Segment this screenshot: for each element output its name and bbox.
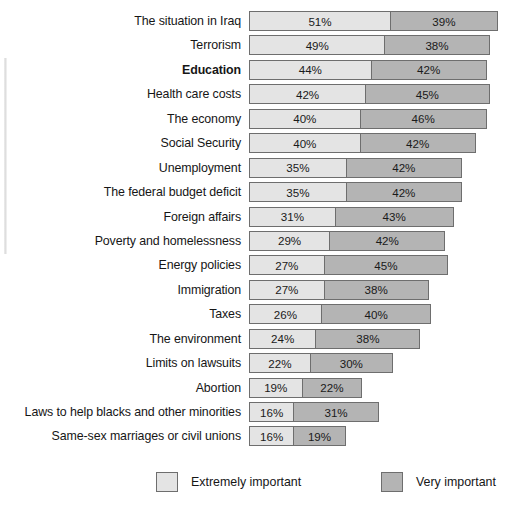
bar-segment-very-important: 42%	[346, 158, 462, 178]
stacked-bar: 49%38%	[249, 35, 490, 55]
row-label: Terrorism	[190, 35, 241, 55]
bar-segment-extremely-important: 31%	[249, 207, 335, 227]
stacked-bar: 51%39%	[249, 11, 498, 31]
stacked-bar: 44%42%	[249, 60, 487, 80]
row-label: Immigration	[177, 280, 241, 300]
bar-segment-very-important: 19%	[293, 426, 346, 446]
bar-segment-extremely-important: 35%	[249, 158, 346, 178]
bar-segment-very-important: 42%	[329, 231, 445, 251]
chart-row: The economy40%46%	[0, 109, 519, 133]
chart-row: Health care costs42%45%	[0, 84, 519, 108]
stacked-bar: 35%42%	[249, 182, 462, 202]
bar-segment-very-important: 31%	[293, 402, 379, 422]
chart-row: Social Security40%42%	[0, 133, 519, 157]
row-label: Energy policies	[158, 255, 241, 275]
stacked-bar: 42%45%	[249, 84, 490, 104]
row-label: Laws to help blacks and other minorities	[25, 402, 241, 422]
stacked-bar: 27%38%	[249, 280, 429, 300]
legend-item-extremely-important: Extremely important	[156, 470, 301, 494]
legend-label-extremely-important: Extremely important	[191, 475, 301, 489]
stacked-bar: 19%22%	[249, 378, 362, 398]
bar-segment-very-important: 45%	[324, 255, 448, 275]
stacked-bar: 16%19%	[249, 426, 346, 446]
chart-row: Unemployment35%42%	[0, 158, 519, 182]
bar-segment-very-important: 22%	[302, 378, 363, 398]
bar-segment-very-important: 42%	[371, 60, 487, 80]
row-label: Unemployment	[159, 158, 241, 178]
stacked-bar-chart: The situation in Iraq51%39%Terrorism49%3…	[0, 0, 519, 509]
chart-row: The environment24%38%	[0, 329, 519, 353]
row-label: The economy	[167, 109, 241, 129]
bar-segment-extremely-important: 35%	[249, 182, 346, 202]
row-label: Taxes	[209, 304, 241, 324]
bar-segment-very-important: 42%	[346, 182, 462, 202]
bar-segment-very-important: 38%	[324, 280, 429, 300]
stacked-bar: 35%42%	[249, 158, 462, 178]
chart-row: The situation in Iraq51%39%	[0, 11, 519, 35]
chart-row: Foreign affairs31%43%	[0, 207, 519, 231]
legend-label-very-important: Very important	[416, 475, 496, 489]
row-label: The federal budget deficit	[104, 182, 241, 202]
bar-segment-extremely-important: 19%	[249, 378, 302, 398]
legend-swatch-very-important	[381, 472, 403, 492]
chart-rows: The situation in Iraq51%39%Terrorism49%3…	[0, 11, 519, 451]
row-label: The situation in Iraq	[134, 11, 241, 31]
chart-row: Poverty and homelessness29%42%	[0, 231, 519, 255]
row-label: Foreign affairs	[164, 207, 241, 227]
stacked-bar: 29%42%	[249, 231, 445, 251]
row-label: Abortion	[196, 378, 241, 398]
stacked-bar: 31%43%	[249, 207, 454, 227]
bar-segment-extremely-important: 49%	[249, 35, 384, 55]
legend-swatch-extremely-important	[156, 472, 178, 492]
bar-segment-extremely-important: 22%	[249, 353, 310, 373]
chart-legend: Extremely important Very important	[0, 470, 519, 496]
stacked-bar: 40%42%	[249, 133, 476, 153]
chart-row: Laws to help blacks and other minorities…	[0, 402, 519, 426]
chart-row: Terrorism49%38%	[0, 35, 519, 59]
bar-segment-very-important: 43%	[335, 207, 454, 227]
bar-segment-very-important: 30%	[310, 353, 393, 373]
bar-segment-extremely-important: 16%	[249, 426, 293, 446]
stacked-bar: 16%31%	[249, 402, 379, 422]
bar-segment-extremely-important: 27%	[249, 280, 324, 300]
row-label: Education	[182, 60, 241, 80]
bar-segment-extremely-important: 40%	[249, 133, 360, 153]
bar-segment-extremely-important: 16%	[249, 402, 293, 422]
stacked-bar: 27%45%	[249, 255, 448, 275]
chart-row: The federal budget deficit35%42%	[0, 182, 519, 206]
bar-segment-very-important: 42%	[360, 133, 476, 153]
row-label: Same-sex marriages or civil unions	[52, 426, 241, 446]
chart-row: Taxes26%40%	[0, 304, 519, 328]
chart-row: Abortion19%22%	[0, 378, 519, 402]
chart-row: Same-sex marriages or civil unions16%19%	[0, 426, 519, 450]
bar-segment-very-important: 40%	[321, 304, 432, 324]
chart-row: Energy policies27%45%	[0, 255, 519, 279]
bar-segment-extremely-important: 51%	[249, 11, 390, 31]
legend-item-very-important: Very important	[381, 470, 496, 494]
bar-segment-very-important: 38%	[384, 35, 489, 55]
stacked-bar: 22%30%	[249, 353, 393, 373]
chart-row: Limits on lawsuits22%30%	[0, 353, 519, 377]
stacked-bar: 40%46%	[249, 109, 487, 129]
bar-segment-extremely-important: 40%	[249, 109, 360, 129]
bar-segment-very-important: 39%	[390, 11, 498, 31]
bar-segment-very-important: 45%	[365, 84, 489, 104]
bar-segment-extremely-important: 29%	[249, 231, 329, 251]
row-label: Limits on lawsuits	[146, 353, 241, 373]
bar-segment-very-important: 38%	[315, 329, 420, 349]
row-label: Health care costs	[147, 84, 241, 104]
bar-segment-extremely-important: 24%	[249, 329, 315, 349]
chart-row: Education44%42%	[0, 60, 519, 84]
row-label: Poverty and homelessness	[95, 231, 241, 251]
bar-segment-very-important: 46%	[360, 109, 487, 129]
row-label: The environment	[150, 329, 241, 349]
bar-segment-extremely-important: 27%	[249, 255, 324, 275]
stacked-bar: 26%40%	[249, 304, 431, 324]
row-label: Social Security	[161, 133, 241, 153]
bar-segment-extremely-important: 26%	[249, 304, 321, 324]
chart-row: Immigration27%38%	[0, 280, 519, 304]
stacked-bar: 24%38%	[249, 329, 420, 349]
bar-segment-extremely-important: 42%	[249, 84, 365, 104]
bar-segment-extremely-important: 44%	[249, 60, 371, 80]
